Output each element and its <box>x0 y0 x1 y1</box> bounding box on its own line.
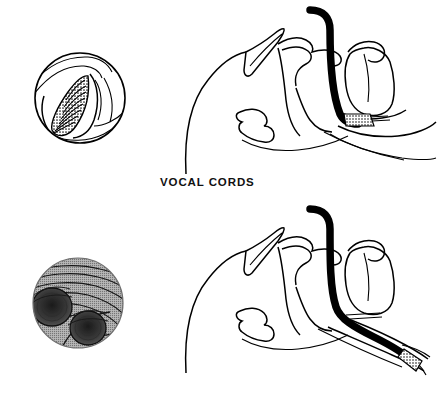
mandible <box>236 308 274 341</box>
nasal-passage <box>250 233 282 265</box>
soft-palate <box>282 47 311 86</box>
laryngeal-inlet <box>364 54 369 102</box>
nose <box>244 228 284 275</box>
endotracheal-tube <box>310 209 412 361</box>
carina-endoscopic-view <box>30 255 126 351</box>
sagittal-airway-carina <box>178 203 438 378</box>
tongue <box>296 88 332 132</box>
left-main-bronchus-orifice <box>70 311 106 345</box>
larynx <box>345 247 394 315</box>
airway-landmarks-figure: VOCAL CORDS <box>0 0 444 393</box>
vocal-cords-inset-contents <box>32 50 128 146</box>
panel-vocal-cords: VOCAL CORDS <box>0 0 444 196</box>
laryngeal-inlet <box>364 253 369 301</box>
soft-palate <box>282 246 311 285</box>
tube-tip-cuff <box>344 114 374 126</box>
right-main-bronchus-orifice <box>32 288 72 326</box>
tongue <box>296 287 332 331</box>
caption-vocal-cords: VOCAL CORDS <box>160 176 255 188</box>
sagittal-airway-vocal-cords <box>178 4 438 179</box>
mandible <box>236 109 274 142</box>
endotracheal-tube <box>310 10 358 124</box>
carina-inset-contents <box>30 255 126 351</box>
submental-contour <box>242 335 348 350</box>
vocal-cords-endoscopic-view <box>32 50 128 146</box>
submental-contour <box>242 136 348 151</box>
nasal-passage <box>250 34 282 66</box>
panel-carina: CARINA <box>0 197 444 393</box>
nose <box>244 29 284 76</box>
larynx <box>345 48 394 116</box>
